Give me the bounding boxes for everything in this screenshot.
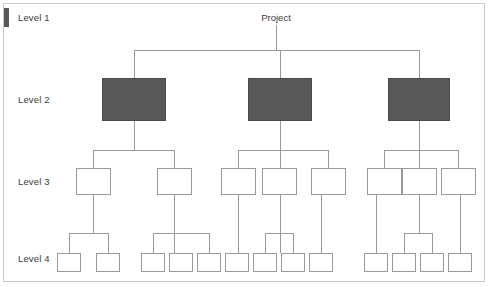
level-label-1: Level 1 — [18, 13, 50, 23]
node-level3-c1[interactable] — [367, 168, 402, 195]
connector-level2-bus — [134, 50, 420, 51]
level-label-4: Level 4 — [18, 254, 50, 264]
connector-c2-drop-2 — [432, 233, 433, 253]
node-level4-12[interactable] — [420, 253, 444, 272]
connector-level2-drop-a — [134, 50, 135, 78]
node-level3-c2[interactable] — [402, 168, 437, 195]
connector-a-drop-2 — [174, 150, 175, 168]
connector-a1-drop-1 — [69, 233, 70, 253]
node-level3-b1[interactable] — [221, 168, 256, 195]
connector-b3-stem — [321, 195, 322, 253]
connector-b2-bus — [265, 233, 294, 234]
connector-a2-bus — [153, 233, 210, 234]
connector-c-stem — [419, 121, 420, 168]
connector-b-drop-3 — [328, 150, 329, 168]
node-level3-a2[interactable] — [157, 168, 192, 195]
connector-b2-stem — [280, 195, 281, 253]
connector-c3-stem — [460, 195, 461, 253]
node-level4-4[interactable] — [169, 253, 193, 272]
connector-a2-drop-1 — [153, 233, 154, 253]
connector-a-bus — [93, 150, 175, 151]
node-level4-6[interactable] — [225, 253, 249, 272]
connector-root-stem — [276, 25, 277, 51]
connector-b2-drop-2 — [293, 233, 294, 253]
node-level4-1[interactable] — [57, 253, 81, 272]
node-level4-3[interactable] — [141, 253, 165, 272]
connector-b1-stem — [238, 195, 239, 253]
connector-a1-stem — [93, 195, 94, 233]
connector-a1-drop-2 — [108, 233, 109, 253]
node-level3-a1[interactable] — [76, 168, 111, 195]
level-label-3: Level 3 — [18, 177, 50, 187]
connector-b-drop-1 — [238, 150, 239, 168]
node-level2-b[interactable] — [248, 78, 312, 121]
connector-a2-stem — [174, 195, 175, 253]
node-level4-10[interactable] — [364, 253, 388, 272]
wbs-diagram: Level 1 Level 2 Level 3 Level 4 Project — [0, 0, 490, 287]
connector-a-stem — [134, 121, 135, 150]
connector-c-drop-3 — [458, 150, 459, 168]
node-level3-b3[interactable] — [311, 168, 346, 195]
node-level2-a[interactable] — [102, 78, 166, 121]
connector-c-bus — [384, 150, 458, 151]
node-level4-8[interactable] — [281, 253, 305, 272]
root-node-project[interactable]: Project — [252, 13, 300, 23]
node-level3-c3[interactable] — [441, 168, 476, 195]
connector-c-drop-1 — [384, 150, 385, 168]
connector-b-bus — [238, 150, 329, 151]
connector-b-stem — [280, 121, 281, 168]
connector-level2-drop-b — [280, 50, 281, 78]
node-level4-11[interactable] — [392, 253, 416, 272]
diagram-frame — [3, 3, 485, 282]
connector-c2-bus — [404, 233, 433, 234]
node-level4-5[interactable] — [197, 253, 221, 272]
node-level4-13[interactable] — [448, 253, 472, 272]
node-level4-9[interactable] — [309, 253, 333, 272]
connector-a-drop-1 — [93, 150, 94, 168]
node-level3-b2[interactable] — [262, 168, 297, 195]
node-level4-7[interactable] — [253, 253, 277, 272]
node-level4-2[interactable] — [96, 253, 120, 272]
connector-level2-drop-c — [419, 50, 420, 78]
node-level2-c[interactable] — [388, 78, 450, 121]
accent-marker — [4, 8, 9, 27]
connector-b2-drop-1 — [265, 233, 266, 253]
connector-a2-drop-3 — [209, 233, 210, 253]
connector-c1-stem — [376, 195, 377, 253]
connector-a1-bus — [69, 233, 109, 234]
connector-c2-drop-1 — [404, 233, 405, 253]
connector-c2-stem — [419, 195, 420, 233]
level-label-2: Level 2 — [18, 95, 50, 105]
